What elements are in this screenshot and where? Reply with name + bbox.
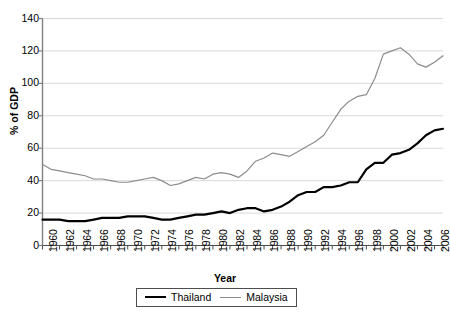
x-axis-tick-label: 2004 <box>422 229 434 252</box>
x-axis-title: Year <box>0 272 450 284</box>
x-axis-tick-label: 1982 <box>234 229 246 252</box>
x-axis-tick-label: 1978 <box>200 229 212 252</box>
x-axis-tick-label: 1980 <box>217 229 229 252</box>
x-axis-tick-label: 1988 <box>285 229 297 252</box>
line-chart: % of GDP 020406080100120140 196019621964… <box>0 0 450 317</box>
x-axis-tick-label: 1990 <box>302 229 314 252</box>
x-axis-tick-label: 2000 <box>388 229 400 252</box>
x-axis-tick-label: 1968 <box>115 229 127 252</box>
legend-entry-malaysia: Malaysia <box>220 291 287 303</box>
x-axis-tick-label: 1992 <box>319 229 331 252</box>
x-axis-tick-label: 1970 <box>132 229 144 252</box>
legend-swatch-thailand-icon <box>145 296 166 298</box>
x-axis-tick-label: 1964 <box>81 229 93 252</box>
x-axis-tick-label: 1998 <box>371 229 383 252</box>
x-axis-tick-label: 1994 <box>336 229 348 252</box>
legend-swatch-malaysia-icon <box>220 297 241 298</box>
legend-label-thailand: Thailand <box>171 291 211 303</box>
x-axis-tick-label: 1976 <box>183 229 195 252</box>
x-axis-tick-label: 1974 <box>166 229 178 252</box>
x-axis-tick-label: 2002 <box>405 229 417 252</box>
x-axis-tick-label: 1966 <box>98 229 110 252</box>
x-axis-tick-label: 1996 <box>353 229 365 252</box>
x-axis-tick-label: 1972 <box>149 229 161 252</box>
legend-label-malaysia: Malaysia <box>246 291 287 303</box>
legend-entry-thailand: Thailand <box>145 291 211 303</box>
x-axis-tick-label: 1960 <box>47 229 59 252</box>
x-axis-tick-label: 1962 <box>64 229 76 252</box>
chart-legend: Thailand Malaysia <box>136 288 297 307</box>
x-axis-tick-label: 1986 <box>268 229 280 252</box>
x-axis-tick-label: 1984 <box>251 229 263 252</box>
x-axis-tick-label: 2006 <box>439 229 450 252</box>
x-axis-tick-labels: 1960196219641966196819701972197419761978… <box>0 0 450 317</box>
